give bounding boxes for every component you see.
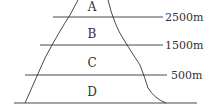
altitude-label-1500: 1500m — [165, 39, 204, 52]
zone-label-a: A — [87, 0, 97, 14]
mountain-right-slope — [108, 0, 166, 103]
zone-label-b: B — [88, 27, 97, 41]
zone-label-d: D — [87, 85, 97, 99]
mountain-left-slope — [25, 0, 78, 103]
zone-label-c: C — [87, 56, 96, 70]
altitude-label-500: 500m — [171, 69, 203, 82]
mountain-diagram: 2500m 1500m 500m A B C D — [0, 0, 213, 107]
altitude-label-2500: 2500m — [165, 11, 204, 24]
